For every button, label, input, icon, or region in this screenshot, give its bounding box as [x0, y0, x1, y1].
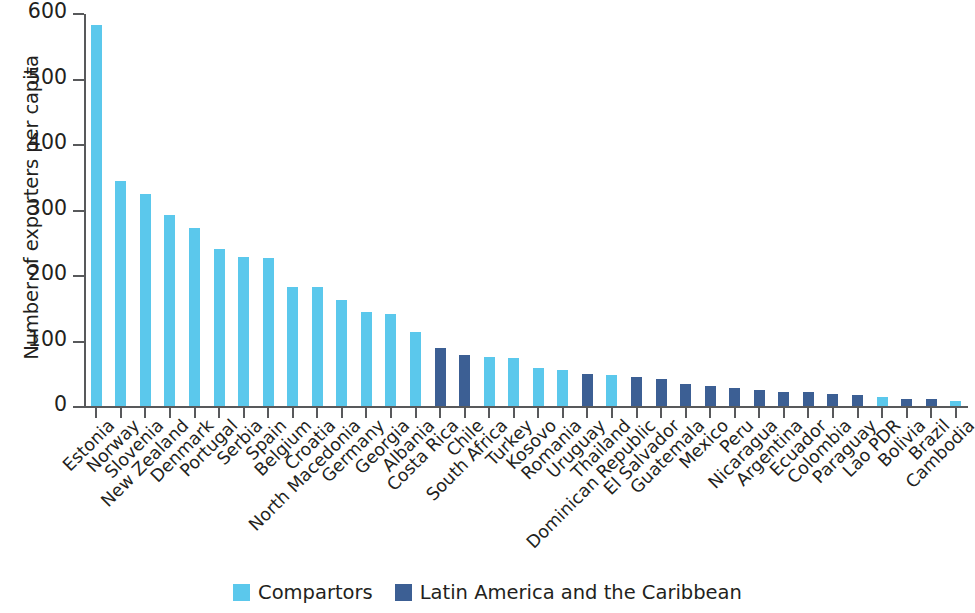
bar	[164, 215, 175, 406]
y-tick: 0	[73, 406, 84, 408]
legend-item-lac: Latin America and the Caribbean	[395, 581, 742, 604]
y-tick-label: 300	[28, 197, 67, 219]
bar	[631, 377, 642, 406]
x-axis-labels: EstoniaNorwaySloveniaNew ZealandDenmarkP…	[84, 408, 968, 558]
bar	[508, 358, 519, 406]
bar	[729, 388, 740, 406]
legend-item-comparators: Compartors	[233, 581, 373, 604]
bar	[533, 368, 544, 406]
chart-legend: Compartors Latin America and the Caribbe…	[0, 581, 975, 604]
bar	[877, 397, 888, 406]
y-tick-label: 100	[28, 328, 67, 350]
legend-label-comparators: Compartors	[258, 581, 373, 604]
legend-swatch-lac	[395, 584, 412, 601]
bar	[926, 399, 937, 406]
bar	[557, 370, 568, 406]
bar	[312, 287, 323, 406]
bar	[778, 392, 789, 406]
bar	[336, 300, 347, 406]
bar	[140, 194, 151, 406]
bar	[459, 355, 470, 406]
bar	[287, 287, 298, 406]
bar	[214, 249, 225, 406]
bar	[606, 375, 617, 406]
bar	[950, 401, 961, 406]
bar	[705, 386, 716, 406]
bar	[410, 332, 421, 406]
bar	[680, 384, 691, 406]
bar	[385, 314, 396, 406]
bar	[91, 25, 102, 406]
y-tick-label: 0	[54, 393, 67, 415]
y-tick: 100	[73, 341, 84, 343]
y-tick-label: 400	[28, 131, 67, 153]
bar	[484, 357, 495, 406]
bar	[238, 257, 249, 406]
y-tick: 500	[73, 79, 84, 81]
bar	[263, 258, 274, 406]
y-tick-label: 200	[28, 262, 67, 284]
legend-swatch-comparators	[233, 584, 250, 601]
y-tick: 300	[73, 210, 84, 212]
bar	[115, 181, 126, 406]
y-tick: 600	[73, 13, 84, 15]
bar	[189, 228, 200, 406]
bar	[361, 312, 372, 406]
bar	[827, 394, 838, 406]
y-tick-label: 600	[28, 0, 67, 22]
bar	[656, 379, 667, 407]
y-tick: 400	[73, 144, 84, 146]
bar	[754, 390, 765, 406]
y-tick: 200	[73, 275, 84, 277]
bar	[901, 399, 912, 406]
bar	[582, 374, 593, 406]
bar	[803, 392, 814, 406]
bar	[435, 348, 446, 406]
y-axis-line	[84, 14, 86, 407]
bar-chart-figure: Number of exporters per capita 010020030…	[0, 0, 975, 613]
y-tick-label: 500	[28, 66, 67, 88]
bar	[852, 395, 863, 406]
legend-label-lac: Latin America and the Caribbean	[420, 581, 742, 604]
plot-area: 0100200300400500600	[84, 14, 968, 407]
